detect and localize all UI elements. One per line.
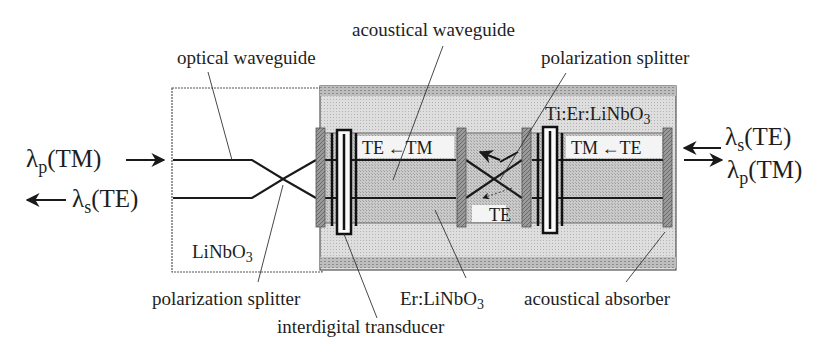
label-polarization-splitter-top: polarization splitter xyxy=(541,48,689,67)
mode-splitter-output: TE xyxy=(489,206,511,224)
label-ti-er-linbo3: Ti:Er:LiNbO3 xyxy=(545,104,651,127)
label-er-linbo3: Er:LiNbO3 xyxy=(400,289,484,312)
label-polarization-splitter-bottom: polarization splitter xyxy=(152,289,300,308)
label-acoustical-absorber: acoustical absorber xyxy=(524,289,670,308)
label-right-input: λp(TM) xyxy=(727,157,802,187)
label-optical-waveguide: optical waveguide xyxy=(177,48,316,67)
mode-left-section: TE ←TM xyxy=(362,139,433,157)
absorber-left xyxy=(316,128,325,227)
label-left-output: λs(TE) xyxy=(72,186,138,216)
absorber-mid-left xyxy=(457,128,466,227)
label-interdigital-transducer: interdigital transducer xyxy=(277,317,444,336)
absorber-right xyxy=(663,128,672,227)
label-left-input: λp(TM) xyxy=(26,146,101,176)
label-right-output: λs(TE) xyxy=(725,124,791,154)
label-linbo3: LiNbO3 xyxy=(192,242,253,265)
mode-right-section: TM ←TE xyxy=(571,139,642,157)
label-acoustical-waveguide: acoustical waveguide xyxy=(352,20,515,39)
